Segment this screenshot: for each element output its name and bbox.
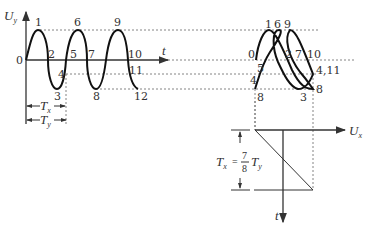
point-10-label: 10 — [128, 48, 142, 61]
point-4-label: 4 — [58, 68, 65, 81]
fig-point-1-label: 1 — [265, 18, 272, 31]
lissajous-figure: 0 1 6 9 2 7 10 5 4 4,11 8 3 8 — [248, 18, 341, 190]
t-axis-label: t — [162, 43, 166, 58]
fig-point-4-11-label: 4,11 — [316, 64, 341, 77]
fig-point-10-label: 10 — [307, 48, 321, 61]
point-5-label: 5 — [70, 48, 77, 61]
formula-rhs: Ty — [251, 154, 262, 171]
fig-point-5-label: 5 — [257, 62, 264, 75]
fig-point-7-label: 7 — [295, 48, 302, 61]
formula-numerator: 7 — [242, 150, 247, 161]
point-6-label: 6 — [74, 16, 81, 29]
point-2-label: 2 — [48, 48, 55, 61]
point-7-label: 7 — [88, 48, 95, 61]
left-waveform-graph: Uy t 0 1 2 3 4 5 6 7 8 9 10 11 12 Tx Ty — [4, 8, 355, 129]
period-ratio-formula: Tx = 7 8 Ty — [216, 150, 262, 174]
sweep-t-label: t — [275, 208, 279, 223]
fig-point-4-label: 4 — [250, 74, 257, 87]
formula-denominator: 8 — [242, 163, 247, 174]
fig-point-6-label: 6 — [274, 18, 281, 31]
fig-point-2-label: 2 — [285, 48, 292, 61]
point-1-label: 1 — [35, 16, 42, 29]
y-axis-label: Uy — [4, 8, 17, 25]
ux-axis-label: Ux — [349, 123, 362, 140]
sweep-graph: Ux t Tx = 7 8 Ty — [216, 101, 362, 223]
fig-point-8-right-label: 8 — [316, 83, 323, 96]
point-11-label: 11 — [129, 64, 143, 77]
fig-point-9-label: 9 — [284, 18, 291, 31]
point-9-label: 9 — [114, 16, 121, 29]
formula-equals: = — [232, 156, 238, 167]
formula-lhs: Tx — [216, 154, 227, 171]
fig-point-3-label: 3 — [300, 91, 307, 104]
point-3-label: 3 — [54, 90, 61, 103]
point-12-label: 12 — [134, 90, 148, 103]
sweep-ramp — [255, 130, 313, 190]
point-8-label: 8 — [93, 90, 100, 103]
fig-point-8-left-label: 8 — [257, 91, 264, 104]
lissajous-diagram: Uy t 0 1 2 3 4 5 6 7 8 9 10 11 12 Tx Ty … — [0, 0, 370, 226]
origin-label: 0 — [16, 54, 23, 67]
fig-point-0-label: 0 — [248, 48, 255, 61]
lissajous-curve — [255, 30, 313, 89]
